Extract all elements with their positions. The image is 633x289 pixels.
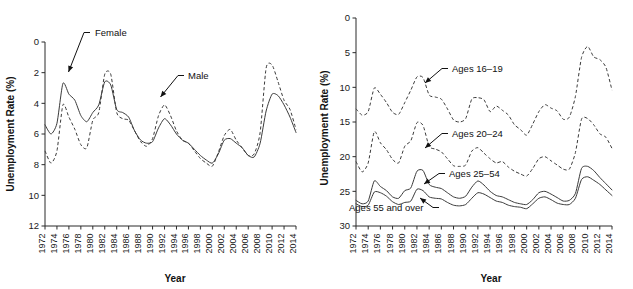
- x-tick-label: 1992: [470, 234, 480, 254]
- x-axis-ticks-left: 1972197419761978198019821984198619881990…: [37, 226, 298, 254]
- y-tick-label: 6: [34, 128, 39, 139]
- y-axis-title-right: Unemployment Rate (%): [319, 70, 330, 185]
- x-tick-label: 2000: [519, 234, 529, 254]
- annotation-female-arrowhead: [68, 65, 73, 72]
- x-tick-label: 1990: [458, 234, 468, 254]
- x-tick-label: 1986: [433, 234, 443, 254]
- series-line-female: [45, 81, 296, 163]
- x-axis-title-right: Year: [480, 273, 501, 284]
- chart-panel-unemployment-by-sex: Unemployment Rate (%) 121086420 19721974…: [0, 0, 316, 289]
- y-tick-label: 4: [34, 98, 39, 109]
- y-tick-label: 15: [339, 116, 350, 127]
- x-tick-label: 1984: [109, 234, 119, 254]
- series-group-left: [45, 63, 296, 166]
- annotation-female-label: Female: [95, 27, 127, 38]
- x-tick-label: 1974: [49, 234, 59, 254]
- x-tick-label: 1994: [169, 234, 179, 254]
- x-tick-label: 2012: [592, 234, 602, 254]
- x-tick-label: 1986: [121, 234, 131, 254]
- x-tick-label: 1996: [180, 234, 190, 254]
- y-tick-label: 10: [28, 190, 39, 201]
- axis-lines-left: [45, 42, 296, 226]
- x-tick-label: 1978: [73, 234, 83, 254]
- x-tick-label: 2010: [264, 234, 274, 254]
- x-tick-label: 2010: [580, 234, 590, 254]
- x-tick-label: 2012: [276, 234, 286, 254]
- x-tick-label: 1994: [482, 234, 492, 254]
- x-tick-label: 2014: [288, 234, 298, 254]
- x-tick-label: 2004: [228, 234, 238, 254]
- x-tick-label: 2004: [543, 234, 553, 254]
- chart-panel-unemployment-by-age: Unemployment Rate (%) 302520151050 19721…: [316, 0, 633, 289]
- annotation-ages-25-54-arrowhead: [424, 178, 430, 184]
- x-tick-label: 1998: [192, 234, 202, 254]
- y-axis-title-left: Unemployment Rate (%): [5, 76, 16, 191]
- x-tick-label: 1996: [494, 234, 504, 254]
- x-tick-label: 2006: [240, 234, 250, 254]
- x-tick-label: 1974: [360, 234, 370, 254]
- x-tick-label: 1988: [446, 234, 456, 254]
- x-tick-label: 2008: [252, 234, 262, 254]
- x-tick-label: 1988: [133, 234, 143, 254]
- x-tick-label: 1978: [385, 234, 395, 254]
- x-tick-label: 2008: [567, 234, 577, 254]
- y-tick-label: 20: [339, 151, 350, 162]
- annotation-ages-20-24-label: Ages 20–24: [452, 128, 503, 139]
- annotation-ages-16-19-label: Ages 16–19: [452, 63, 503, 74]
- x-tick-label: 1992: [157, 234, 167, 254]
- y-tick-label: 12: [28, 220, 39, 231]
- x-tick-label: 2000: [204, 234, 214, 254]
- axis-lines-right: [356, 18, 612, 226]
- x-tick-label: 1972: [37, 234, 47, 254]
- x-tick-label: 1990: [145, 234, 155, 254]
- y-tick-label: 10: [339, 82, 350, 93]
- y-axis-title-left-text: Unemployment Rate (%): [5, 76, 16, 191]
- x-tick-label: 1976: [372, 234, 382, 254]
- series-line-ages-16-19: [356, 46, 612, 135]
- y-axis-ticks-right: 302520151050: [339, 12, 356, 231]
- x-tick-label: 2002: [216, 234, 226, 254]
- x-tick-label: 1984: [421, 234, 431, 254]
- annotation-ages-25-54-label: Ages 25–54: [449, 168, 500, 179]
- x-tick-label: 2014: [604, 234, 614, 254]
- x-tick-label: 1972: [348, 234, 358, 254]
- chart-svg-right: Unemployment Rate (%) 302520151050 19721…: [316, 0, 633, 289]
- x-axis-ticks-right: 1972197419761978198019821984198619881990…: [348, 226, 614, 254]
- chart-svg-left: Unemployment Rate (%) 121086420 19721974…: [0, 0, 316, 289]
- y-axis-ticks-left: 121086420: [28, 36, 45, 231]
- y-axis-title-right-text: Unemployment Rate (%): [319, 70, 330, 185]
- x-tick-label: 1980: [85, 234, 95, 254]
- x-tick-label: 1982: [409, 234, 419, 254]
- x-tick-label: 2006: [555, 234, 565, 254]
- y-tick-label: 8: [34, 159, 39, 170]
- x-tick-label: 1976: [61, 234, 71, 254]
- x-tick-label: 2002: [531, 234, 541, 254]
- x-axis-title-left: Year: [164, 273, 185, 284]
- annotation-male-label: Male: [188, 70, 209, 81]
- annotations-left: FemaleMale: [68, 27, 208, 97]
- annotation-female-leader: [69, 33, 91, 73]
- x-tick-label: 1998: [507, 234, 517, 254]
- series-line-male: [45, 63, 296, 166]
- y-tick-label: 30: [339, 220, 350, 231]
- y-tick-label: 5: [345, 47, 350, 58]
- y-tick-label: 0: [345, 12, 350, 23]
- y-tick-label: 0: [34, 36, 39, 47]
- y-tick-label: 25: [339, 186, 350, 197]
- y-tick-label: 2: [34, 67, 39, 78]
- annotation-ages-55-over-label: Ages 55 and over: [349, 202, 423, 213]
- unemployment-figure: Unemployment Rate (%) 121086420 19721974…: [0, 0, 633, 289]
- x-tick-label: 1980: [397, 234, 407, 254]
- x-tick-label: 1982: [97, 234, 107, 254]
